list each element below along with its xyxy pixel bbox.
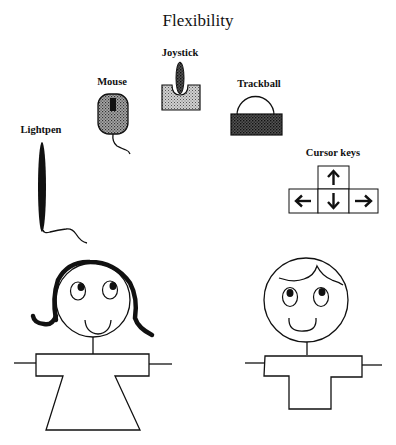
- diagram-title: Flexibility: [163, 11, 234, 30]
- joystick-label: Joystick: [162, 47, 199, 58]
- cursor-keys-device: Cursor keys: [289, 147, 378, 213]
- boy-tshirt: [264, 356, 362, 409]
- trackball-icon: [231, 97, 282, 135]
- trackball-device: Trackball: [231, 78, 282, 135]
- girl-dress: [36, 354, 149, 430]
- cursor-keys-label: Cursor keys: [306, 147, 360, 158]
- mouse-icon: [98, 94, 130, 154]
- lightpen-device: Lightpen: [21, 124, 87, 243]
- trackball-label: Trackball: [237, 78, 281, 89]
- mouse-device: Mouse: [97, 76, 130, 154]
- cursor-keys-icon: [289, 166, 378, 213]
- joystick-device: Joystick: [162, 47, 200, 110]
- lightpen-label: Lightpen: [21, 124, 62, 135]
- joystick-icon: [162, 62, 200, 110]
- lightpen-icon: [38, 142, 87, 243]
- boy-figure: [245, 258, 382, 409]
- mouse-label: Mouse: [97, 76, 127, 87]
- girl-figure: [14, 262, 172, 430]
- flexibility-diagram: Flexibility Joystick Mouse Trackball Lig…: [0, 0, 396, 445]
- boy-head: [264, 258, 348, 342]
